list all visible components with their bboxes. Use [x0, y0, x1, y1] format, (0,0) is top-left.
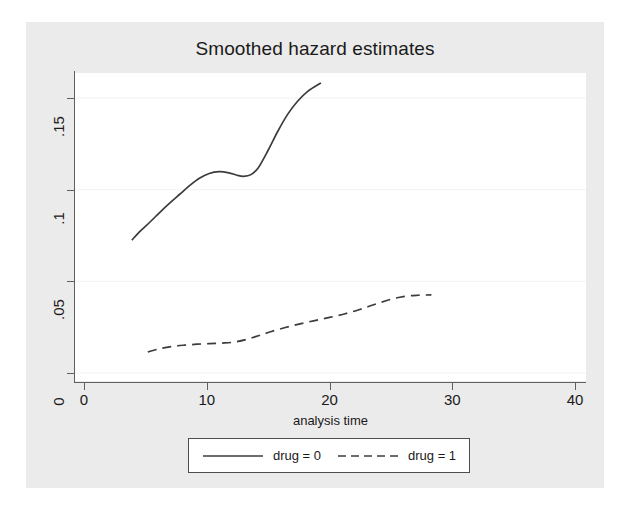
- x-tick-label: 0: [58, 391, 110, 408]
- y-tick-mark: [67, 281, 74, 282]
- y-tick-label: .1: [50, 189, 67, 247]
- legend-label: drug = 1: [408, 448, 456, 463]
- x-tick-mark: [575, 383, 576, 390]
- y-tick-mark: [67, 190, 74, 191]
- y-tick-mark: [67, 98, 74, 99]
- x-tick-label: 20: [304, 391, 356, 408]
- plot-region: [75, 73, 586, 381]
- series-line-0: [132, 83, 321, 240]
- x-tick-mark: [207, 383, 208, 390]
- x-axis-title: analysis time: [75, 413, 586, 428]
- y-axis-line: [74, 71, 75, 383]
- gridlines: [75, 98, 586, 373]
- x-tick-label: 30: [426, 391, 478, 408]
- legend: drug = 0drug = 1: [188, 438, 470, 473]
- solid-line-icon: [202, 450, 264, 462]
- chart-title: Smoothed hazard estimates: [26, 38, 604, 60]
- y-tick-label: .15: [50, 98, 67, 156]
- x-tick-mark: [84, 383, 85, 390]
- plot-svg: [75, 73, 586, 381]
- series-layer: [132, 83, 432, 352]
- x-tick-mark: [330, 383, 331, 390]
- x-tick-mark: [452, 383, 453, 390]
- dashed-line-icon: [337, 450, 399, 462]
- series-line-1: [148, 295, 432, 352]
- x-tick-label: 10: [181, 391, 233, 408]
- legend-entry-0[interactable]: drug = 0: [202, 448, 321, 463]
- y-tick-label: .05: [50, 281, 67, 339]
- x-tick-label: 40: [549, 391, 601, 408]
- chart-screenshot: Smoothed hazard estimates 0.05.1.15 0102…: [0, 0, 628, 509]
- legend-entry-1[interactable]: drug = 1: [337, 448, 456, 463]
- y-tick-mark: [67, 373, 74, 374]
- legend-label: drug = 0: [273, 448, 321, 463]
